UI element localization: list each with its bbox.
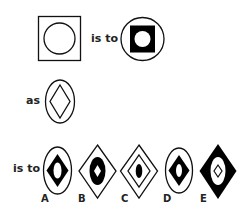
option-a-label[interactable]: A — [41, 193, 49, 204]
option-c-label[interactable]: C — [121, 193, 128, 204]
option-d-figure[interactable] — [166, 148, 193, 193]
option-e-label[interactable]: E — [200, 193, 207, 204]
option-b-label[interactable]: B — [78, 193, 86, 204]
figure-circle-black-square — [121, 18, 164, 61]
is-to-label: is to — [91, 32, 118, 45]
figure-square-with-circle — [39, 17, 81, 61]
figure-ellipse-with-diamond — [46, 80, 75, 123]
as-label: as — [26, 94, 40, 107]
option-d-label[interactable]: D — [163, 193, 171, 204]
option-c-figure[interactable] — [121, 145, 158, 198]
option-b-figure[interactable] — [79, 145, 116, 198]
is-to-label-2: is to — [13, 162, 40, 175]
option-a-figure[interactable] — [44, 147, 72, 194]
analogy-figure — [0, 0, 248, 215]
option-e-figure[interactable] — [200, 144, 237, 199]
